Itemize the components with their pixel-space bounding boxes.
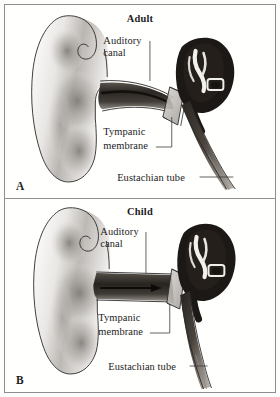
panel-title: Adult	[127, 13, 154, 24]
adult-ear-illustration: Adult Auditory canal Tympanic membrane E…	[5, 5, 275, 198]
leader-tympanic-membrane	[150, 305, 170, 333]
auditory-canal	[98, 81, 173, 111]
label-tympanic-membrane-line1: Tympanic	[103, 126, 146, 137]
outer-ear-pinna	[32, 16, 109, 182]
label-eustachian-tube: Eustachian tube	[108, 361, 176, 372]
label-tympanic-membrane-line2: membrane	[98, 326, 143, 337]
label-auditory-canal-line1: Auditory	[103, 35, 142, 46]
anatomy-figure: Adult Auditory canal Tympanic membrane E…	[0, 0, 280, 397]
child-ear-illustration: Child Auditory canal Tympanic membrane E…	[5, 199, 275, 393]
figure-frame: Adult Auditory canal Tympanic membrane E…	[4, 4, 276, 393]
leader-tympanic-membrane	[156, 117, 172, 147]
label-auditory-canal-line2: canal	[103, 47, 125, 58]
panel-id-b: B	[16, 374, 24, 386]
panel-adult: Adult Auditory canal Tympanic membrane E…	[5, 5, 275, 198]
panel-child: Child Auditory canal Tympanic membrane E…	[5, 199, 275, 393]
label-tympanic-membrane-line1: Tympanic	[98, 312, 141, 323]
panel-title: Child	[127, 206, 153, 217]
label-auditory-canal-line2: canal	[100, 238, 122, 249]
panel-id-a: A	[16, 180, 25, 192]
middle-ear-mass	[176, 38, 234, 131]
auditory-canal	[93, 272, 173, 302]
label-tympanic-membrane-line2: membrane	[103, 140, 148, 151]
label-eustachian-tube: Eustachian tube	[117, 172, 185, 183]
label-auditory-canal-line1: Auditory	[100, 226, 139, 237]
